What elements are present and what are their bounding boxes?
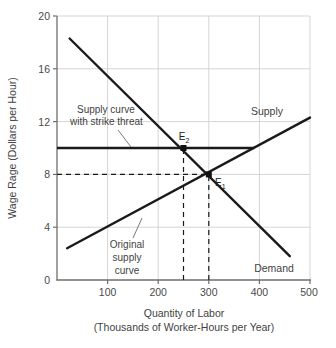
ytick-label-16: 16 [38, 63, 50, 75]
point-marker-E1 [206, 171, 212, 177]
ytick-label-0: 0 [44, 274, 50, 286]
original-supply-annotation-line3: curve [115, 265, 140, 276]
x-axis-title-line2: (Thousands of Worker-Hours per Year) [94, 321, 275, 333]
chart-figure: 20 16 12 8 4 0 100 200 300 400 500 [0, 0, 336, 348]
x-axis-title-line1: Quantity of Labor [144, 307, 225, 319]
strike-threat-annotation-line2: with strike threat [69, 116, 143, 127]
original-supply-annotation-line2: supply [113, 252, 142, 263]
xtick-label-500: 500 [300, 286, 318, 298]
point-marker-E2 [181, 145, 187, 151]
demand-label: Demand [254, 262, 294, 274]
xtick-label-100: 100 [99, 286, 117, 298]
xtick-label-300: 300 [200, 286, 218, 298]
xtick-label-200: 200 [149, 286, 167, 298]
ytick-label-8: 8 [44, 168, 50, 180]
labor-market-strike-threat-chart: 20 16 12 8 4 0 100 200 300 400 500 [0, 0, 336, 348]
ytick-label-12: 12 [38, 116, 50, 128]
strike-threat-annotation-line1: Supply curve [77, 104, 135, 115]
xtick-label-400: 400 [251, 286, 269, 298]
ytick-label-4: 4 [44, 221, 50, 233]
ytick-label-20: 20 [38, 10, 50, 22]
supply-label: Supply [251, 105, 284, 117]
original-supply-annotation-line1: Original [110, 239, 144, 250]
y-axis-title: Wage Rage (Dollars per Hour) [6, 77, 18, 218]
